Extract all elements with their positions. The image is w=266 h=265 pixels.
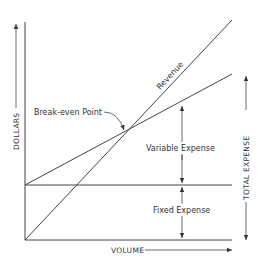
total-expense-label: TOTAL EXPENSE	[242, 136, 251, 201]
break-even-chart: Revenue Break-even Point Variable Expens…	[0, 0, 266, 265]
variable-expense-label: Variable Expense	[146, 144, 215, 153]
dollars-label: DOLLARS	[12, 113, 21, 150]
break-even-label: Break-even Point	[34, 108, 102, 117]
fixed-expense-label: Fixed Expense	[153, 206, 210, 215]
volume-label: VOLUME	[111, 246, 144, 255]
break-even-pointer	[104, 112, 124, 130]
revenue-label: Revenue	[155, 60, 185, 92]
